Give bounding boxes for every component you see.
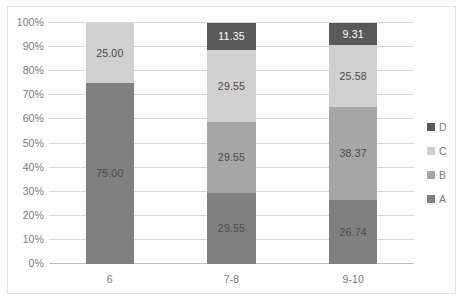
legend-item-label: C xyxy=(439,146,447,157)
y-axis-tick-label: 50% xyxy=(23,137,44,149)
legend-item-d[interactable]: D xyxy=(427,115,457,139)
bar-segment-value-label: 25.00 xyxy=(96,48,123,59)
bar-segment-value-label: 26.74 xyxy=(340,227,367,238)
legend-swatch-icon xyxy=(427,195,435,203)
legend-swatch-icon xyxy=(427,123,435,131)
bar-column[interactable]: 29.5529.5529.5511.357-8 xyxy=(207,23,255,264)
y-axis-tick-label: 70% xyxy=(23,88,44,100)
y-axis-tick-label: 90% xyxy=(23,40,44,52)
x-axis-tick-label: 7-8 xyxy=(207,273,255,285)
bar-column[interactable]: 75.0025.006 xyxy=(86,23,134,264)
bar-segment-value-label: 29.55 xyxy=(218,223,245,234)
chart-legend: DCBA xyxy=(427,115,457,211)
legend-item-c[interactable]: C xyxy=(427,139,457,163)
bar-segment-value-label: 38.37 xyxy=(340,148,367,159)
bar-segment-d[interactable]: 11.35 xyxy=(207,23,255,50)
bar-segment-b[interactable]: 29.55 xyxy=(207,122,255,193)
legend-item-label: A xyxy=(439,194,446,205)
bar-segment-a[interactable]: 75.00 xyxy=(86,83,134,264)
bar-segment-c[interactable]: 25.58 xyxy=(329,45,377,107)
x-axis-tick-label: 9-10 xyxy=(329,273,377,285)
bar-segment-value-label: 9.31 xyxy=(343,29,364,40)
y-axis-tick-label: 80% xyxy=(23,64,44,76)
bar-column[interactable]: 26.7438.3725.589.319-10 xyxy=(329,23,377,264)
y-axis-tick-label: 60% xyxy=(23,112,44,124)
chart-frame: 100%90%80%70%60%50%40%30%20%10%0%75.0025… xyxy=(7,6,456,294)
bar-segment-c[interactable]: 29.55 xyxy=(207,50,255,121)
legend-item-label: D xyxy=(439,122,447,133)
bar-segment-value-label: 25.58 xyxy=(340,71,367,82)
legend-item-b[interactable]: B xyxy=(427,163,457,187)
y-axis-tick-label: 20% xyxy=(23,209,44,221)
plot-area: 100%90%80%70%60%50%40%30%20%10%0%75.0025… xyxy=(49,23,414,264)
legend-item-a[interactable]: A xyxy=(427,187,457,211)
bar-segment-value-label: 29.55 xyxy=(218,81,245,92)
bar-segment-a[interactable]: 29.55 xyxy=(207,193,255,264)
bar-segment-value-label: 11.35 xyxy=(218,31,245,42)
y-axis-tick-label: 10% xyxy=(23,233,44,245)
x-axis-tick-label: 6 xyxy=(86,273,134,285)
bar-segment-b[interactable]: 38.37 xyxy=(329,107,377,199)
bar-segment-d[interactable]: 9.31 xyxy=(329,23,377,45)
y-axis-tick-label: 0% xyxy=(29,257,44,269)
legend-swatch-icon xyxy=(427,147,435,155)
legend-swatch-icon xyxy=(427,171,435,179)
bar-segment-a[interactable]: 26.74 xyxy=(329,200,377,264)
bar-segment-value-label: 75.00 xyxy=(96,168,123,179)
y-axis-tick-label: 30% xyxy=(23,185,44,197)
y-axis-tick-label: 40% xyxy=(23,161,44,173)
bar-segment-c[interactable]: 25.00 xyxy=(86,23,134,83)
legend-item-label: B xyxy=(439,170,446,181)
y-axis-tick-label: 100% xyxy=(17,16,44,28)
bar-segment-value-label: 29.55 xyxy=(218,152,245,163)
